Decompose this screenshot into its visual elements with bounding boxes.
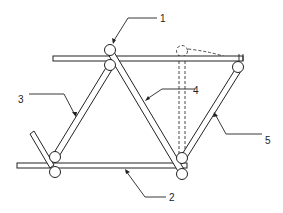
bottom-left-joint-upper [50, 152, 61, 163]
top-right-joint [233, 62, 244, 73]
top-joint-upper [105, 45, 116, 56]
left-diagonal-member [52, 66, 113, 158]
label-4: 4 [193, 85, 199, 96]
label-1: 1 [160, 13, 166, 24]
top-rail [53, 54, 243, 61]
bottom-right-joint-lower [177, 169, 188, 180]
right-diagonal-member [181, 68, 241, 159]
label-2: 2 [169, 192, 175, 203]
center-diagonal-member [108, 52, 185, 173]
truss-diagram: 1 2 3 4 5 [0, 0, 283, 213]
top-joint-lower [105, 60, 116, 71]
label-5: 5 [265, 135, 271, 146]
bottom-right-joint-upper [177, 153, 188, 164]
label-3: 3 [18, 94, 24, 105]
dashed-alternate-member [177, 46, 235, 159]
left-stub-member [30, 131, 54, 168]
bottom-rail [17, 163, 187, 168]
bottom-left-joint-lower [50, 167, 61, 178]
